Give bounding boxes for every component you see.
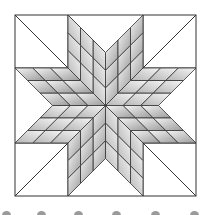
partial-dot [74,211,83,215]
partial-dot [2,211,11,215]
partial-dot [190,211,199,215]
partial-dot [37,211,46,215]
quilt-block-diagram [0,0,207,215]
partial-dot [151,211,160,215]
partial-dot [112,211,121,215]
